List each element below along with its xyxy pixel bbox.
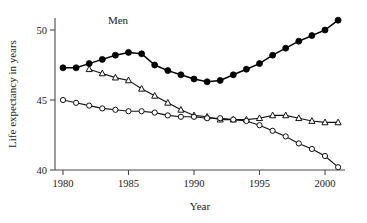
series-line	[89, 69, 338, 122]
data-point-open-circle	[165, 113, 170, 118]
data-point-open-circle	[74, 100, 79, 105]
y-tick-label: 50	[37, 25, 48, 36]
x-tick-label: 1995	[249, 178, 270, 189]
line-chart-svg: 19801985199019952000 404550 Men YearLife…	[0, 0, 367, 223]
data-point-open-circle	[191, 114, 196, 119]
data-point-open-circle	[152, 110, 157, 115]
data-point-filled-circle	[99, 56, 105, 62]
data-point-filled-circle	[112, 52, 118, 58]
data-point-open-triangle	[139, 86, 145, 92]
chart-annotations: Men	[108, 14, 129, 26]
data-point-filled-circle	[191, 76, 197, 82]
data-point-open-circle	[218, 116, 223, 121]
data-point-open-circle	[126, 109, 131, 114]
x-tick-label: 1990	[184, 178, 205, 189]
y-axis-ticks: 404550	[37, 25, 56, 176]
x-axis-ticks: 19801985199019952000	[53, 170, 336, 189]
data-point-filled-circle	[139, 51, 145, 57]
data-point-open-circle	[283, 134, 288, 139]
data-point-filled-circle	[335, 17, 341, 23]
data-point-filled-circle	[152, 62, 158, 68]
data-point-open-circle	[244, 118, 249, 123]
data-point-open-circle	[87, 103, 92, 108]
data-point-open-circle	[205, 116, 210, 121]
data-point-open-circle	[100, 106, 105, 111]
data-point-open-circle	[257, 123, 262, 128]
x-tick-label: 1985	[118, 178, 139, 189]
data-point-filled-circle	[309, 33, 315, 39]
series-series-triangle	[86, 66, 341, 125]
data-point-open-circle	[139, 109, 144, 114]
data-point-filled-circle	[270, 52, 276, 58]
data-point-open-circle	[113, 107, 118, 112]
x-tick-label: 1980	[53, 178, 74, 189]
data-point-filled-circle	[283, 45, 289, 51]
data-point-filled-circle	[165, 68, 171, 74]
data-point-filled-circle	[204, 79, 210, 85]
y-axis-title: Life expectancy in years	[6, 40, 18, 148]
data-point-filled-circle	[217, 77, 223, 83]
data-point-filled-circle	[230, 72, 236, 78]
data-point-open-circle	[60, 97, 65, 102]
data-point-open-circle	[336, 165, 341, 170]
chart-axis-titles: YearLife expectancy in years	[6, 40, 210, 212]
x-axis-title: Year	[190, 200, 211, 212]
y-tick-label: 45	[37, 95, 48, 106]
series-line	[63, 20, 338, 82]
data-point-open-triangle	[152, 93, 158, 99]
data-point-filled-circle	[322, 27, 328, 33]
data-point-filled-circle	[296, 38, 302, 44]
data-point-filled-circle	[73, 65, 79, 71]
series-series-circle	[60, 97, 340, 169]
data-point-filled-circle	[178, 72, 184, 78]
chart-figure: 19801985199019952000 404550 Men YearLife…	[0, 0, 367, 223]
series-annotation-label: Men	[108, 14, 129, 26]
chart-series-group	[60, 17, 341, 170]
data-point-filled-circle	[257, 61, 263, 67]
data-point-open-circle	[296, 141, 301, 146]
data-point-open-circle	[309, 146, 314, 151]
data-point-filled-circle	[60, 65, 66, 71]
x-tick-label: 2000	[315, 178, 336, 189]
data-point-filled-circle	[243, 66, 249, 72]
data-point-open-circle	[178, 114, 183, 119]
data-point-open-circle	[322, 153, 327, 158]
data-point-filled-circle	[126, 49, 132, 55]
data-point-open-triangle	[178, 107, 184, 113]
data-point-open-triangle	[165, 100, 171, 106]
data-point-open-circle	[270, 128, 275, 133]
y-tick-label: 40	[37, 165, 48, 176]
data-point-open-triangle	[86, 66, 92, 72]
data-point-open-circle	[231, 117, 236, 122]
